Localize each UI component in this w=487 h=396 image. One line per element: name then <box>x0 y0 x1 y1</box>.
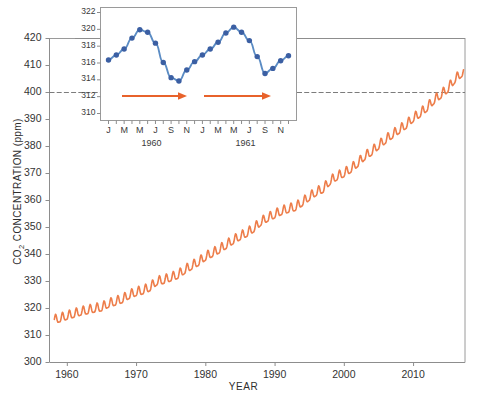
y-tick-label: 350 <box>6 220 42 232</box>
y-tick-label: 320 <box>6 301 42 313</box>
x-tick-label: 1970 <box>106 368 166 380</box>
inset-data-point <box>168 75 173 80</box>
inset-data-point <box>106 57 111 62</box>
inset-frame <box>101 8 297 121</box>
inset-y-tick-label: 322 <box>68 6 96 16</box>
inset-year-label: 1961 <box>220 138 270 148</box>
inset-x-axis <box>109 121 289 125</box>
inset-data-point <box>114 52 119 57</box>
inset-data-point <box>270 66 275 71</box>
inset-y-tick-label: 318 <box>68 40 96 50</box>
inset-x-tick-label: N <box>271 125 291 135</box>
inset-data-point <box>161 60 166 65</box>
inset-data-point <box>247 38 252 43</box>
x-tick-label: 2000 <box>314 368 374 380</box>
inset-y-tick-label: 314 <box>68 73 96 83</box>
y-tick-label: 410 <box>6 58 42 70</box>
inset-data-point <box>278 58 283 63</box>
y-tick-label: 400 <box>6 85 42 97</box>
inset-y-axis <box>97 13 101 114</box>
inset-data-point <box>200 52 205 57</box>
y-tick-label: 360 <box>6 193 42 205</box>
y-tick-label: 420 <box>6 31 42 43</box>
inset-data-point <box>231 24 236 29</box>
inset-data-point <box>192 59 197 64</box>
x-tick-label: 2010 <box>383 368 443 380</box>
inset-data-point <box>255 54 260 59</box>
y-tick-label: 390 <box>6 112 42 124</box>
inset-data-point <box>129 35 134 40</box>
y-tick-label: 330 <box>6 274 42 286</box>
x-tick-label: 1990 <box>245 368 305 380</box>
inset-data-point <box>223 30 228 35</box>
inset-plot <box>97 8 297 125</box>
y-tick-label: 370 <box>6 166 42 178</box>
inset-data-point <box>176 78 181 83</box>
y-tick-label: 340 <box>6 247 42 259</box>
inset-data-point <box>121 46 126 51</box>
inset-data-point <box>137 27 142 32</box>
inset-y-tick-label: 316 <box>68 57 96 67</box>
x-tick-label: 1980 <box>175 368 235 380</box>
x-tick-label: 1960 <box>37 368 97 380</box>
y-tick-label: 300 <box>6 355 42 367</box>
inset-data-point <box>286 53 291 58</box>
inset-year-label: 1960 <box>127 138 177 148</box>
co2-keeling-curve-figure: CO2 CONCENTRATION (ppm) YEAR 30031032033… <box>0 0 487 396</box>
inset-data-point <box>239 30 244 35</box>
main-y-axis <box>46 39 50 363</box>
inset-y-tick-label: 310 <box>68 107 96 117</box>
inset-data-point <box>262 71 267 76</box>
y-tick-label: 310 <box>6 328 42 340</box>
inset-data-point <box>145 30 150 35</box>
inset-data-point <box>184 67 189 72</box>
inset-y-tick-label: 320 <box>68 23 96 33</box>
inset-data-point <box>208 46 213 51</box>
inset-data-point <box>215 40 220 45</box>
y-tick-label: 380 <box>6 139 42 151</box>
inset-data-point <box>153 40 158 45</box>
inset-y-tick-label: 312 <box>68 90 96 100</box>
